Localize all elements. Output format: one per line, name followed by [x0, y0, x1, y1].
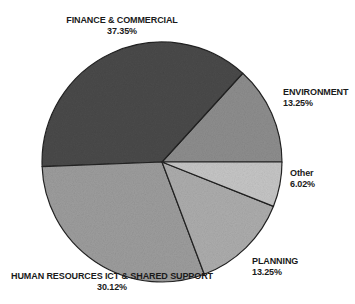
slice-label-finance-percent: 37.35% [62, 26, 182, 37]
slice-label-human-resources-percent: 30.12% [6, 282, 218, 293]
slice-label-planning: PLANNING 13.25% [252, 256, 298, 278]
slice-label-environment-name: ENVIRONMENT [283, 87, 348, 97]
slice-label-environment: ENVIRONMENT 13.25% [283, 87, 348, 109]
slice-label-other: Other 6.02% [290, 168, 315, 190]
pie-chart-canvas [0, 0, 355, 304]
slice-label-planning-percent: 13.25% [252, 267, 298, 278]
slice-label-other-percent: 6.02% [290, 179, 315, 190]
pie-slices-group [42, 42, 282, 282]
slice-label-finance: FINANCE & COMMERCIAL 37.35% [62, 15, 182, 37]
slice-label-finance-name: FINANCE & COMMERCIAL [66, 15, 178, 25]
slice-label-human-resources-name: HUMAN RESOURCES ICT & SHARED SUPPORT [11, 271, 213, 281]
slice-label-other-name: Other [290, 168, 314, 178]
slice-label-environment-percent: 13.25% [283, 98, 348, 109]
pie-chart: FINANCE & COMMERCIAL 37.35% ENVIRONMENT … [0, 0, 355, 304]
slice-label-planning-name: PLANNING [252, 256, 298, 266]
slice-label-human-resources: HUMAN RESOURCES ICT & SHARED SUPPORT 30.… [6, 271, 218, 293]
